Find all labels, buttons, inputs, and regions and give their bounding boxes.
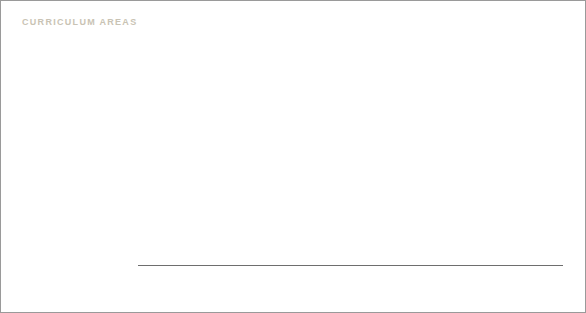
chart-page: CURRICULUM AREAS [0,0,586,313]
axis-baseline [138,265,563,266]
page-title: CURRICULUM AREAS [22,17,137,27]
plot-area [138,38,563,266]
